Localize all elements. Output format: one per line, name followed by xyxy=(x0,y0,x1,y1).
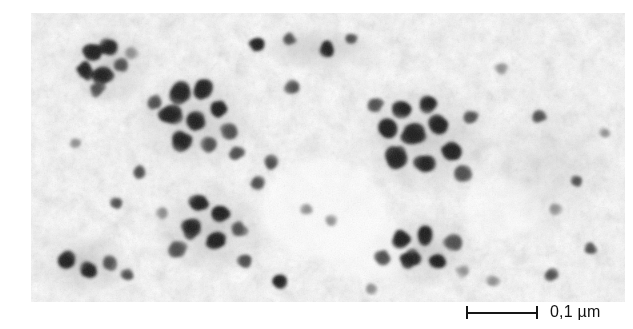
film-grain-overlay xyxy=(31,13,625,302)
scale-bar-label: 0,1 µm xyxy=(550,304,600,320)
micrograph-canvas xyxy=(31,13,625,302)
figure-root: 0,1 µm xyxy=(0,0,633,329)
scale-bar-right-cap xyxy=(536,306,538,319)
scale-bar-line xyxy=(466,312,538,314)
scale-bar-rule xyxy=(466,306,538,319)
scale-bar: 0,1 µm xyxy=(466,298,600,326)
electron-micrograph-image xyxy=(31,13,625,302)
